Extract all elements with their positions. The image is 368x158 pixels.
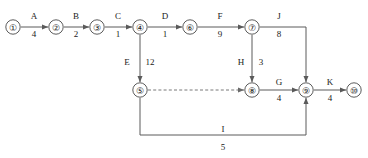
network-diagram-canvas: ① ② ③ ④ ⑥ ⑦ ⑤ ⑧ ⑨ ⑩ A B C D F J E H G K … [0,0,368,158]
activity-h-duration: 3 [259,57,264,67]
activity-f-duration: 9 [218,29,223,39]
node-7-label: ⑦ [248,23,256,33]
activity-c-name: C [115,11,121,21]
activity-d-name: D [162,11,169,21]
activity-g-name: G [276,77,283,87]
activity-g-duration: 4 [277,93,282,103]
network-diagram-svg: ① ② ③ ④ ⑥ ⑦ ⑤ ⑧ ⑨ ⑩ A B C D F J E H G K … [0,0,368,158]
activity-a-name: A [31,11,38,21]
node-9-label: ⑨ [302,86,310,96]
activity-c-duration: 1 [116,29,121,39]
edge-j [260,27,306,82]
activity-h-name: H [238,57,245,67]
node-1-label: ① [9,23,17,33]
activity-j-duration: 8 [277,29,282,39]
activity-e-duration: 12 [146,57,155,67]
node-5-label: ⑤ [136,86,144,96]
activity-b-duration: 2 [74,29,79,39]
activity-a-duration: 4 [32,29,37,39]
node-10-label: ⑩ [350,86,358,96]
activity-e-name: E [124,57,130,67]
node-4-label: ④ [136,23,144,33]
activity-d-duration: 1 [163,29,168,39]
activity-i-name: I [222,124,225,134]
activity-k-duration: 4 [328,93,333,103]
activity-f-name: F [217,11,222,21]
node-2-label: ② [52,23,60,33]
activity-b-name: B [73,11,79,21]
node-3-label: ③ [93,23,101,33]
node-8-label: ⑧ [248,86,256,96]
activity-k-name: K [327,77,334,87]
node-6-label: ⑥ [186,23,194,33]
activity-i-duration: 5 [221,142,226,152]
activity-j-name: J [277,11,281,21]
